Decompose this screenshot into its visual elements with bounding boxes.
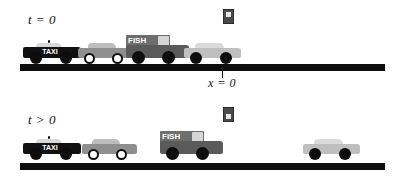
truck-wheel-front — [166, 147, 179, 160]
truck-wheel-rear — [196, 147, 209, 160]
truck-sign-text: FISH — [162, 133, 190, 141]
vehicle-fish-truck-top: FISH — [126, 35, 189, 64]
car-grey-wheel-rear — [112, 53, 123, 64]
traffic-lamp — [226, 12, 231, 17]
truck-wheel-front — [132, 51, 145, 64]
car-grey-wheel-front — [88, 149, 99, 160]
traffic-flow-figure: t = 0 x = 0 TAXI FISH — [0, 0, 405, 177]
vehicle-car-light-top — [184, 42, 241, 64]
truck-wheel-rear — [162, 51, 175, 64]
taxi-wheel-rear — [60, 52, 72, 64]
vehicle-fish-truck-bottom: FISH — [160, 131, 223, 160]
road-line-bottom — [20, 163, 385, 170]
car-light-wheel-front — [309, 148, 321, 160]
time-label-bottom: t > 0 — [28, 112, 56, 128]
road-line-top — [20, 64, 385, 71]
truck-sign-text: FISH — [128, 37, 156, 45]
car-grey-wheel-front — [84, 53, 95, 64]
traffic-light-green-icon — [223, 107, 234, 122]
traffic-lamp — [226, 114, 231, 119]
car-light-wheel-front — [190, 52, 202, 64]
vehicle-taxi-top: TAXI — [23, 41, 81, 64]
taxi-wheel-front — [30, 148, 42, 160]
vehicle-car-light-bottom — [303, 138, 360, 160]
vehicle-car-grey-top — [78, 42, 133, 64]
panel-t-greater-than-0: t > 0 TAXI FISH — [0, 90, 405, 177]
car-light-wheel-rear — [339, 148, 351, 160]
taxi-wheel-rear — [60, 148, 72, 160]
time-label-top: t = 0 — [28, 12, 56, 28]
traffic-light-red-icon — [223, 9, 234, 24]
vehicle-taxi-bottom: TAXI — [23, 137, 81, 160]
panel-t-equals-0: t = 0 x = 0 TAXI FISH — [0, 0, 405, 90]
car-grey-wheel-rear — [116, 149, 127, 160]
car-light-wheel-rear — [220, 52, 232, 64]
vehicle-car-grey-bottom — [82, 138, 137, 160]
position-label-x-equals-0: x = 0 — [208, 76, 236, 91]
taxi-wheel-front — [30, 52, 42, 64]
